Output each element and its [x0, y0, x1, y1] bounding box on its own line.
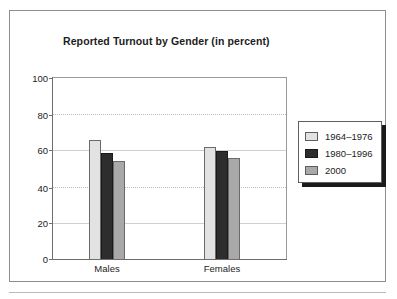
y-tick-label-60: 60 [37, 145, 48, 156]
legend-item-1980-1996[interactable]: 1980–1996 [305, 145, 381, 161]
y-tick-mark-80 [49, 115, 53, 116]
legend-swatch-icon-1980-1996 [305, 149, 318, 158]
bar-group-males [89, 140, 125, 259]
legend-label-1980-1996: 1980–1996 [325, 148, 373, 159]
legend-item-1964-1976[interactable]: 1964–1976 [305, 128, 381, 144]
legend-item-2000[interactable]: 2000 [305, 162, 381, 178]
category-label-females: Females [204, 263, 240, 274]
chart-legend: 1964–1976 1980–1996 2000 [298, 121, 382, 183]
bar-males-2000[interactable] [113, 161, 125, 259]
gridline-0: 0 [53, 259, 286, 260]
category-label-males: Males [94, 263, 119, 274]
bar-females-1980-1996[interactable] [216, 151, 228, 259]
y-tick-label-100: 100 [32, 73, 48, 84]
y-tick-label-20: 20 [37, 217, 48, 228]
page-bottom-rule [9, 292, 386, 293]
gridline-100: 100 [53, 78, 286, 79]
y-tick-mark-40 [49, 188, 53, 189]
y-tick-mark-60 [49, 150, 53, 151]
legend-label-2000: 2000 [325, 165, 346, 176]
legend-label-1964-1976: 1964–1976 [325, 131, 373, 142]
y-axis-line [52, 77, 53, 260]
gridline-40: 40 [53, 187, 286, 188]
y-tick-label-0: 0 [43, 254, 48, 265]
legend-swatch-icon-1964-1976 [305, 132, 318, 141]
chart-title: Reported Turnout by Gender (in percent) [63, 35, 270, 47]
bar-group-females [204, 147, 240, 259]
bar-males-1964-1976[interactable] [89, 140, 101, 259]
y-tick-mark-20 [49, 223, 53, 224]
plot-area: 100 80 60 40 20 0 [52, 77, 287, 260]
y-tick-label-80: 80 [37, 110, 48, 121]
gridline-20: 20 [53, 223, 286, 224]
gridline-60: 60 [53, 150, 286, 151]
gridline-80: 80 [53, 114, 286, 115]
y-tick-label-40: 40 [37, 182, 48, 193]
legend-swatch-icon-2000 [305, 166, 318, 175]
figure-frame: Reported Turnout by Gender (in percent) … [9, 10, 386, 282]
bar-males-1980-1996[interactable] [101, 153, 113, 259]
y-tick-mark-100 [49, 78, 53, 79]
y-tick-mark-0 [49, 259, 53, 260]
bar-females-2000[interactable] [228, 158, 240, 259]
bar-females-1964-1976[interactable] [204, 147, 216, 259]
